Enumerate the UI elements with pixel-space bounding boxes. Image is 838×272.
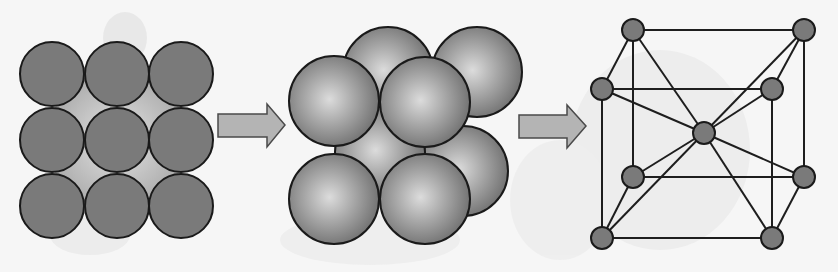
atom-circle bbox=[85, 42, 149, 106]
lattice-node-front-bottom-right bbox=[761, 227, 783, 249]
atom-sphere bbox=[380, 57, 470, 147]
atom-circle bbox=[85, 108, 149, 172]
atom-circle bbox=[85, 174, 149, 238]
atom-sphere bbox=[289, 154, 379, 244]
panel-packed-spheres bbox=[289, 27, 522, 244]
lattice-node-back-bottom-left bbox=[622, 166, 644, 188]
diagram-stage: Crystal lattice formation from packed at… bbox=[0, 0, 838, 272]
right-arrow-icon bbox=[218, 104, 285, 147]
panel-square-layer bbox=[20, 42, 213, 238]
lattice-node-front-top-right bbox=[761, 78, 783, 100]
atom-circle bbox=[149, 174, 213, 238]
atom-circle bbox=[20, 108, 84, 172]
atom-circle bbox=[149, 108, 213, 172]
lattice-node-front-top-left bbox=[591, 78, 613, 100]
atom-sphere bbox=[380, 154, 470, 244]
lattice-node-back-top-right bbox=[793, 19, 815, 41]
atom-sphere bbox=[289, 56, 379, 146]
atom-circle bbox=[20, 174, 84, 238]
lattice-node-center bbox=[693, 122, 715, 144]
lattice-node-back-bottom-right bbox=[793, 166, 815, 188]
atom-circle bbox=[20, 42, 84, 106]
atom-circle bbox=[149, 42, 213, 106]
lattice-node-front-bottom-left bbox=[591, 227, 613, 249]
lattice-node-back-top-left bbox=[622, 19, 644, 41]
diagram-canvas bbox=[0, 0, 838, 272]
